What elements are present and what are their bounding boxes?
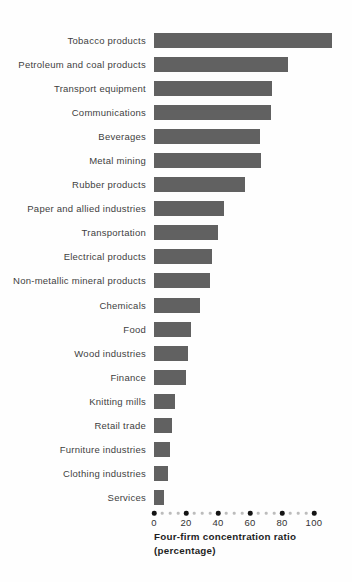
bar-row: Non-metallic mineral products — [0, 269, 332, 293]
bar-row: Finance — [0, 365, 332, 389]
axis-major-tick-dot — [312, 511, 317, 516]
category-label: Retail trade — [0, 420, 154, 431]
bar-row: Rubber products — [0, 173, 332, 197]
bar-row: Petroleum and coal products — [0, 53, 332, 77]
category-label: Chemicals — [0, 300, 154, 311]
concentration-ratio-bar-chart: Tobacco products Petroleum and coal prod… — [0, 0, 352, 582]
bar-row: Retail trade — [0, 413, 332, 437]
category-label: Rubber products — [0, 179, 154, 190]
axis-minor-tick-dot — [289, 512, 292, 515]
axis-minor-tick-dot — [193, 512, 196, 515]
bar — [154, 33, 332, 48]
bar-row: Food — [0, 317, 332, 341]
axis-tick-label: 40 — [212, 517, 223, 528]
bar — [154, 273, 210, 288]
axis-tick-label: 20 — [180, 517, 191, 528]
bar-row: Wood industries — [0, 341, 332, 365]
bar-row: Services — [0, 485, 332, 509]
category-label: Knitting mills — [0, 396, 154, 407]
category-label: Paper and allied industries — [0, 203, 154, 214]
category-label: Food — [0, 324, 154, 335]
axis-minor-tick-dot — [209, 512, 212, 515]
axis-minor-tick-dot — [201, 512, 204, 515]
bar — [154, 201, 224, 216]
category-label: Finance — [0, 372, 154, 383]
x-axis-title-line1: Four-firm concentration ratio — [154, 530, 296, 544]
bar — [154, 81, 272, 96]
bar — [154, 394, 175, 409]
bar — [154, 466, 168, 481]
bar — [154, 177, 245, 192]
bar-row: Metal mining — [0, 149, 332, 173]
category-label: Communications — [0, 107, 154, 118]
bar — [154, 490, 164, 505]
bar-row: Paper and allied industries — [0, 197, 332, 221]
axis-minor-tick-dot — [177, 512, 180, 515]
bar-row: Electrical products — [0, 245, 332, 269]
axis-minor-tick-dot — [265, 512, 268, 515]
axis-major-tick-dot — [184, 511, 189, 516]
bar-row: Knitting mills — [0, 389, 332, 413]
bar-row: Chemicals — [0, 293, 332, 317]
bar — [154, 346, 188, 361]
category-label: Furniture industries — [0, 444, 154, 455]
category-label: Tobacco products — [0, 35, 154, 46]
axis-minor-tick-dot — [273, 512, 276, 515]
bar — [154, 298, 200, 313]
bar — [154, 225, 218, 240]
bar — [154, 322, 191, 337]
axis-tick-label: 100 — [306, 517, 323, 528]
axis-major-tick-dot — [216, 511, 221, 516]
bar-row: Transport equipment — [0, 77, 332, 101]
bar — [154, 442, 170, 457]
bar — [154, 105, 271, 120]
bar — [154, 129, 260, 144]
category-label: Transport equipment — [0, 83, 154, 94]
bar — [154, 57, 288, 72]
category-label: Transportation — [0, 227, 154, 238]
bar-row: Transportation — [0, 221, 332, 245]
category-label: Metal mining — [0, 155, 154, 166]
axis-minor-tick-dot — [161, 512, 164, 515]
x-axis-title: Four-firm concentration ratio (percentag… — [154, 530, 296, 557]
bar — [154, 418, 172, 433]
bar-row: Communications — [0, 101, 332, 125]
category-label: Beverages — [0, 131, 154, 142]
axis-minor-tick-dot — [233, 512, 236, 515]
bar-rows-container: Tobacco products Petroleum and coal prod… — [0, 29, 332, 510]
axis-tick-label: 0 — [151, 517, 157, 528]
category-label: Electrical products — [0, 251, 154, 262]
bar-row: Tobacco products — [0, 29, 332, 53]
axis-minor-tick-dot — [297, 512, 300, 515]
bar — [154, 249, 212, 264]
category-label: Petroleum and coal products — [0, 59, 154, 70]
bar-row: Beverages — [0, 125, 332, 149]
axis-major-tick-dot — [152, 511, 157, 516]
bar-row: Clothing industries — [0, 461, 332, 485]
axis-minor-tick-dot — [305, 512, 308, 515]
axis-major-tick-dot — [248, 511, 253, 516]
bar — [154, 370, 186, 385]
category-label: Wood industries — [0, 348, 154, 359]
axis-tick-label: 60 — [244, 517, 255, 528]
category-label: Clothing industries — [0, 468, 154, 479]
category-label: Non-metallic mineral products — [0, 275, 154, 286]
axis-minor-tick-dot — [169, 512, 172, 515]
axis-minor-tick-dot — [257, 512, 260, 515]
axis-major-tick-dot — [280, 511, 285, 516]
bar — [154, 153, 261, 168]
category-label: Services — [0, 492, 154, 503]
axis-minor-tick-dot — [225, 512, 228, 515]
x-axis-title-line2: (percentage) — [154, 544, 296, 558]
axis-minor-tick-dot — [241, 512, 244, 515]
bar-row: Furniture industries — [0, 437, 332, 461]
axis-tick-label: 80 — [276, 517, 287, 528]
